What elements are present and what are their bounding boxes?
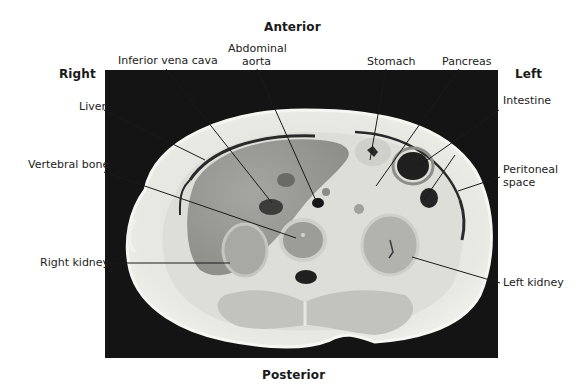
cross-section-image — [105, 70, 498, 358]
label-left-kidney: Left kidney — [503, 276, 564, 289]
label-abdominal-aorta-line1: Abdominal — [228, 42, 287, 55]
label-peritoneal-space-line2: space — [503, 176, 535, 189]
posterior-label: Posterior — [262, 368, 325, 382]
anterior-label: Anterior — [264, 20, 321, 34]
label-right-kidney: Right kidney — [40, 256, 109, 269]
label-liver: Liver — [79, 100, 106, 113]
label-peritoneal-space-line1: Peritoneal — [503, 163, 558, 176]
label-abdominal-aorta-line2: aorta — [242, 55, 271, 68]
label-stomach: Stomach — [367, 55, 416, 68]
right-label: Right — [59, 67, 96, 81]
label-pancreas: Pancreas — [442, 55, 491, 68]
cross-section-photo — [105, 70, 498, 358]
left-label: Left — [515, 67, 542, 81]
label-intestine: Intestine — [503, 94, 551, 107]
label-vertebral-bone: Vertebral bone — [28, 158, 109, 171]
label-inferior-vena-cava: Inferior vena cava — [118, 54, 218, 67]
